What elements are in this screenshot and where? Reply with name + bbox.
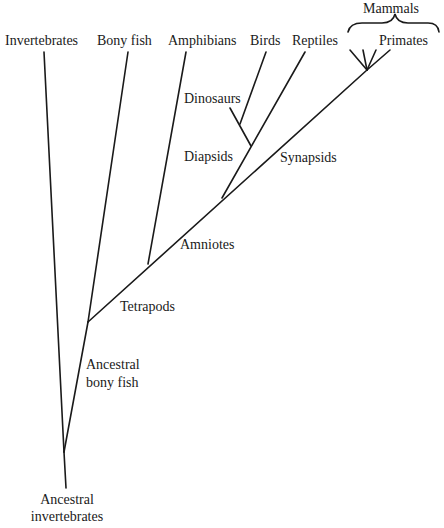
label-reptiles: Reptiles	[292, 33, 338, 49]
label-birds: Birds	[250, 33, 280, 49]
label-bony-fish: Bony fish	[97, 33, 152, 49]
label-diapsids: Diapsids	[184, 149, 233, 165]
label-ancestral-invertebrates-line2: invertebrates	[20, 509, 114, 525]
label-invertebrates: Invertebrates	[5, 33, 78, 49]
branch-primates	[367, 50, 390, 70]
branch-birds	[240, 52, 266, 124]
label-mammals: Mammals	[363, 1, 419, 17]
label-synapsids: Synapsids	[280, 150, 337, 166]
tree-branches	[0, 0, 444, 528]
branch-ancestral-bony-fish	[64, 322, 88, 452]
label-amphibians: Amphibians	[168, 33, 236, 49]
branch-invertebrates	[44, 52, 64, 452]
branch-bony-fish	[88, 52, 128, 322]
phylogenetic-tree-diagram: Invertebrates Bony fish Amphibians Birds…	[0, 0, 444, 528]
branch-tetrapods-synapsids	[88, 70, 367, 322]
label-ancestral-bony-fish-line2: bony fish	[86, 375, 139, 391]
label-ancestral-bony-fish-line1: Ancestral	[86, 357, 140, 373]
label-tetrapods: Tetrapods	[120, 299, 175, 315]
branch-reptiles	[222, 52, 305, 198]
label-dinosaurs: Dinosaurs	[184, 91, 241, 107]
branch-dinosaurs	[230, 108, 251, 146]
root-trunk	[64, 452, 66, 488]
branch-amphibians	[148, 52, 186, 264]
label-ancestral-invertebrates-line1: Ancestral	[20, 492, 114, 508]
label-amniotes: Amniotes	[180, 237, 234, 253]
label-primates: Primates	[379, 33, 428, 49]
